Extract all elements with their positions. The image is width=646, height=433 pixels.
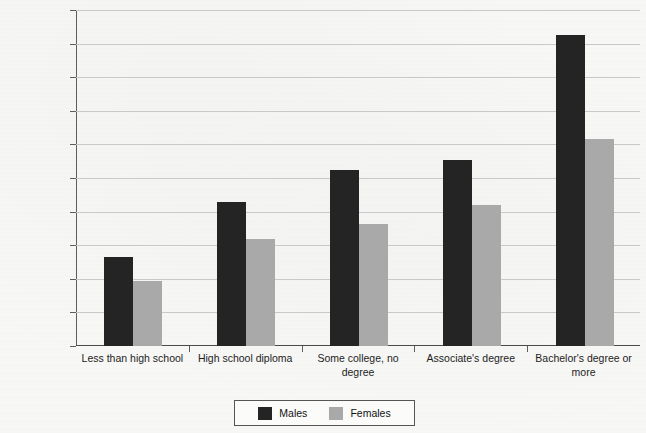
legend-item-females: Females: [329, 407, 390, 420]
y-axis-tick-mark: [70, 77, 76, 78]
y-axis-tick-mark: [70, 10, 76, 11]
y-axis-tick-mark: [70, 312, 76, 313]
bar-females-1: [246, 239, 275, 346]
bar-chart-figure: Income $0$10,000$20,000$30,000$40,000$50…: [0, 0, 646, 433]
x-axis-category-label: High school diploma: [189, 352, 302, 366]
y-axis-tick-mark: [70, 245, 76, 246]
y-axis-tick-mark: [70, 279, 76, 280]
legend-label-females: Females: [350, 407, 390, 419]
bar-females-2: [359, 224, 388, 346]
y-axis-tick-mark: [70, 111, 76, 112]
x-axis-tick-labels: Less than high schoolHigh school diploma…: [76, 352, 640, 394]
y-axis-tick-mark: [70, 44, 76, 45]
chart-legend: Males Females: [234, 400, 415, 426]
x-axis-category-label: Bachelor's degree or more: [527, 352, 640, 379]
bar-females-3: [472, 205, 501, 346]
bar-males-0: [104, 257, 133, 346]
bar-males-3: [443, 160, 472, 346]
y-axis-tick-mark: [70, 346, 76, 347]
bar-males-2: [330, 170, 359, 346]
y-axis-tick-mark: [70, 144, 76, 145]
bar-males-1: [217, 202, 246, 346]
x-axis-category-label: Less than high school: [76, 352, 189, 366]
gridline: [76, 10, 640, 11]
x-axis-category-label: Some college, no degree: [302, 352, 415, 379]
bar-females-4: [585, 139, 614, 346]
bar-females-0: [133, 281, 162, 346]
legend-swatch-females-icon: [329, 407, 343, 420]
plot-area: [76, 10, 640, 346]
x-axis-category-label: Associate's degree: [414, 352, 527, 366]
y-axis-tick-mark: [70, 212, 76, 213]
legend-label-males: Males: [279, 407, 307, 419]
bar-males-4: [556, 35, 585, 346]
legend-item-males: Males: [258, 407, 307, 420]
legend-swatch-males-icon: [258, 407, 272, 420]
y-axis-tick-mark: [70, 178, 76, 179]
